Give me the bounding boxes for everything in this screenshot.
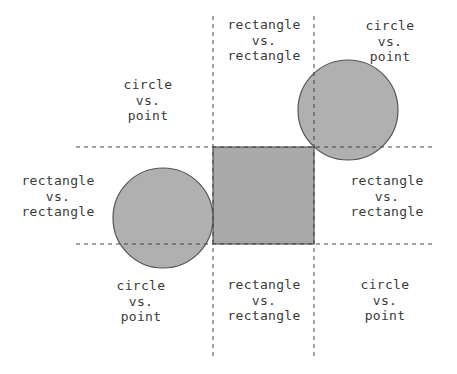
- label-line: vs.: [21, 189, 94, 205]
- region-label-top-right: circle vs. point: [366, 18, 415, 65]
- circle-left-shape: [113, 168, 213, 268]
- region-label-bottom-left: circle vs. point: [117, 278, 166, 325]
- label-line: point: [361, 308, 410, 324]
- region-label-top-center: rectangle vs. rectangle: [227, 17, 300, 64]
- region-label-bottom-center: rectangle vs. rectangle: [227, 277, 300, 324]
- label-line: rectangle: [227, 17, 300, 33]
- label-line: circle: [361, 277, 410, 293]
- label-line: point: [366, 49, 415, 65]
- label-line: rectangle: [21, 204, 94, 220]
- label-line: circle: [117, 278, 166, 294]
- region-label-bottom-right: circle vs. point: [361, 277, 410, 324]
- circle-right-shape: [298, 60, 398, 160]
- label-line: vs.: [350, 189, 423, 205]
- region-label-top-left: circle vs. point: [124, 77, 173, 124]
- rectangle-shape: [213, 147, 314, 244]
- label-line: point: [124, 108, 173, 124]
- label-line: rectangle: [21, 173, 94, 189]
- region-label-middle-right: rectangle vs. rectangle: [350, 173, 423, 220]
- label-line: point: [117, 309, 166, 325]
- label-line: rectangle: [227, 277, 300, 293]
- region-label-middle-left: rectangle vs. rectangle: [21, 173, 94, 220]
- label-line: rectangle: [227, 308, 300, 324]
- label-line: rectangle: [350, 173, 423, 189]
- label-line: circle: [124, 77, 173, 93]
- label-line: rectangle: [227, 48, 300, 64]
- collision-regions-diagram: circle vs. point rectangle vs. rectangle…: [0, 0, 457, 374]
- label-line: rectangle: [350, 204, 423, 220]
- label-line: circle: [366, 18, 415, 34]
- label-line: vs.: [227, 293, 300, 309]
- label-line: vs.: [117, 294, 166, 310]
- label-line: vs.: [124, 93, 173, 109]
- label-line: vs.: [366, 34, 415, 50]
- label-line: vs.: [227, 33, 300, 49]
- label-line: vs.: [361, 293, 410, 309]
